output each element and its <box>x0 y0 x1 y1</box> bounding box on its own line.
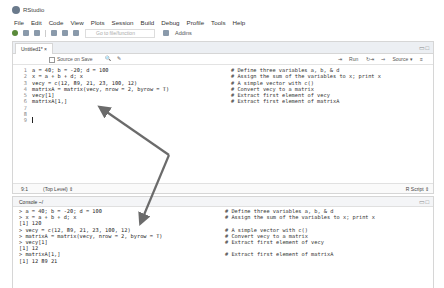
source-button[interactable]: ⇒ Source ▾ <box>381 56 413 62</box>
scope-selector[interactable]: (Top Level) ⇕ <box>43 186 73 192</box>
menu-file[interactable]: File <box>14 19 24 26</box>
menu-code[interactable]: Code <box>49 19 64 26</box>
new-project-icon[interactable] <box>23 30 29 36</box>
save-all-icon[interactable] <box>62 30 68 36</box>
file-type-selector[interactable]: R Script ⇕ <box>406 186 429 192</box>
toolbar-divider <box>45 30 46 37</box>
run-controls: ⇥ Run ↻⇥ ⇒ Source ▾ ≡ <box>332 56 423 62</box>
print-icon[interactable] <box>73 30 79 36</box>
code-line: 9 <box>13 117 433 123</box>
goto-file-input[interactable]: Go to file/function <box>85 29 155 38</box>
console-pane: Console ~/ ▭□ > a = 40; b = -20; d = 100… <box>12 196 434 288</box>
menu-help[interactable]: Help <box>233 19 246 26</box>
editor-tab-bar: Untitled1* × ▭□ <box>13 42 433 54</box>
editor-window-buttons[interactable]: ▭□ <box>419 44 429 51</box>
console-title: Console ~/ <box>19 199 43 205</box>
cursor-position: 9:1 <box>21 186 28 192</box>
menu-profile[interactable]: Profile <box>187 19 205 26</box>
source-on-save-checkbox[interactable]: Source on Save <box>49 56 93 63</box>
editor-status-bar: 9:1 (Top Level) ⇕ R Script ⇕ <box>13 183 433 193</box>
menu-tools[interactable]: Tools <box>211 19 225 26</box>
menu-debug[interactable]: Debug <box>161 19 179 26</box>
outline-icon[interactable]: ≡ <box>420 56 423 62</box>
search-icon[interactable]: 🔍 <box>105 55 111 61</box>
open-file-icon[interactable] <box>34 30 40 36</box>
save-icon[interactable] <box>51 30 57 36</box>
menu-view[interactable]: View <box>70 19 83 26</box>
menu-edit[interactable]: Edit <box>31 19 42 26</box>
title-bar: RStudio <box>0 0 444 17</box>
menu-plots[interactable]: Plots <box>91 19 105 26</box>
menu-session[interactable]: Session <box>112 19 134 26</box>
main-toolbar: Go to file/function Addins <box>0 27 444 39</box>
run-button[interactable]: ⇥ Run <box>338 56 359 62</box>
tab-untitled1[interactable]: Untitled1* × <box>15 43 53 54</box>
console-window-buttons[interactable]: ▭□ <box>419 198 429 205</box>
menu-build[interactable]: Build <box>141 19 155 26</box>
new-file-icon[interactable] <box>12 30 18 36</box>
source-editor-pane: Untitled1* × ▭□ Source on Save 🔍 ✎ ⇥ Run… <box>12 41 434 194</box>
tab-label: Untitled1* <box>21 46 43 52</box>
workspace-panes-icon[interactable] <box>163 30 169 36</box>
code-area[interactable]: 1a = 40; b = -20; d = 100# Define three … <box>13 65 433 124</box>
window-title: RStudio <box>23 7 44 13</box>
console-header: Console ~/ ▭□ <box>13 197 433 207</box>
menu-bar: File Edit Code View Plots Session Build … <box>0 17 444 27</box>
console-output[interactable]: > a = 40; b = -20; d = 100# Define three… <box>13 207 433 264</box>
text-cursor <box>32 117 33 123</box>
addins-button[interactable]: Addins <box>175 30 192 36</box>
console-line: [1] 12 89 21 <box>19 258 433 264</box>
editor-toolbar: Source on Save 🔍 ✎ ⇥ Run ↻⇥ ⇒ Source ▾ ≡ <box>13 54 433 65</box>
rerun-button[interactable]: ↻⇥ <box>366 56 374 62</box>
rstudio-logo-icon <box>12 6 20 14</box>
wand-icon[interactable]: ✎ <box>117 55 121 61</box>
